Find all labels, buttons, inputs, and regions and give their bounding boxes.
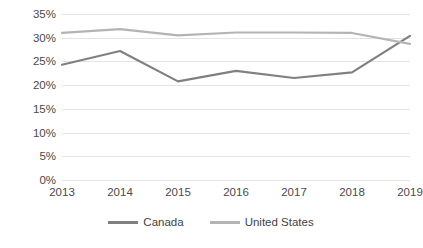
legend-item[interactable]: United States	[210, 216, 314, 228]
legend-swatch-icon	[108, 221, 138, 224]
y-tick-label: 0%	[0, 174, 56, 186]
chart-legend: CanadaUnited States	[0, 216, 422, 228]
x-tick-label: 2018	[339, 186, 365, 198]
y-tick-label: 30%	[0, 32, 56, 44]
x-tick-label: 2016	[223, 186, 249, 198]
legend-swatch-icon	[210, 221, 240, 224]
legend-label: United States	[245, 216, 314, 228]
y-tick-label: 10%	[0, 127, 56, 139]
y-axis: 35%30%25%20%15%10%5%0%	[0, 0, 56, 194]
plot-area	[62, 14, 410, 180]
x-tick-label: 2017	[281, 186, 307, 198]
legend-label: Canada	[143, 216, 183, 228]
x-axis: 2013201420152016201720182019	[62, 186, 410, 204]
x-tick-label: 2014	[107, 186, 133, 198]
x-tick-label: 2019	[397, 186, 423, 198]
y-tick-label: 25%	[0, 55, 56, 67]
series-line	[62, 29, 410, 44]
y-tick-label: 35%	[0, 8, 56, 20]
series-line	[62, 36, 410, 82]
x-tick-label: 2015	[165, 186, 191, 198]
y-tick-label: 5%	[0, 150, 56, 162]
y-tick-label: 15%	[0, 103, 56, 115]
gridline	[62, 180, 410, 181]
y-tick-label: 20%	[0, 79, 56, 91]
series-layer	[62, 14, 410, 180]
legend-item[interactable]: Canada	[108, 216, 183, 228]
x-tick-label: 2013	[49, 186, 75, 198]
